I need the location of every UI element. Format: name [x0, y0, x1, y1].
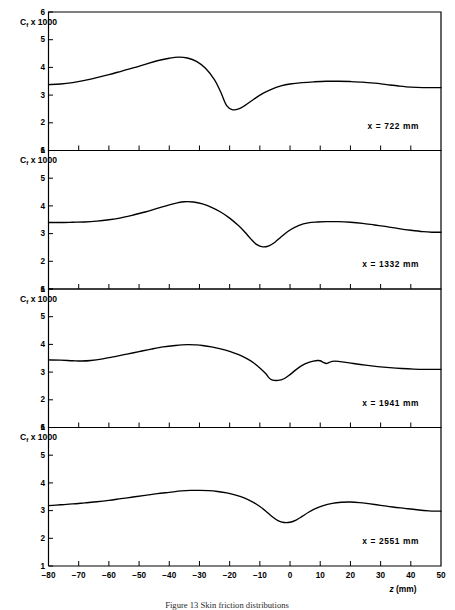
- y-axis-label: Cf x 1000: [20, 155, 57, 166]
- panel-1: 123456Cf x 1000x = 722 mm: [20, 8, 441, 156]
- y-tick-label: 6: [40, 285, 45, 294]
- panel-2: 123456Cf x 1000x = 1332 mm: [20, 146, 441, 294]
- x-tick-label: −70: [72, 571, 86, 580]
- x-tick-label: −30: [193, 571, 207, 580]
- y-tick-label: 2: [40, 257, 45, 266]
- skin-friction-figure: 123456Cf x 1000x = 722 mm123456Cf x 1000…: [0, 0, 455, 610]
- panel-annotation-2: x = 1332 mm: [362, 259, 419, 269]
- y-tick-label: 4: [40, 479, 45, 488]
- y-tick-label: 6: [40, 423, 45, 432]
- y-axis-label: Cf x 1000: [20, 294, 57, 305]
- y-tick-label: 5: [40, 174, 45, 183]
- x-tick-label: −20: [223, 571, 237, 580]
- curve-station-722: [49, 57, 442, 110]
- x-tick-label: 30: [376, 571, 386, 580]
- y-tick-label: 5: [40, 312, 45, 321]
- y-axis-label-rest: x 1000: [28, 432, 57, 442]
- y-tick-label: 1: [40, 562, 45, 571]
- y-axis-label: Cf x 1000: [20, 17, 57, 28]
- figure-container: 123456Cf x 1000x = 722 mm123456Cf x 1000…: [0, 0, 455, 610]
- x-tick-label: 40: [406, 571, 416, 580]
- y-tick-label: 3: [40, 506, 45, 515]
- x-tick-label: −80: [42, 571, 56, 580]
- y-axis-label-rest: x 1000: [28, 155, 57, 165]
- y-axis-label: Cf x 1000: [20, 432, 57, 443]
- figure-caption: Figure 13 Skin friction distributions: [165, 600, 289, 610]
- y-tick-label: 2: [40, 395, 45, 404]
- x-tick-label: 20: [346, 571, 356, 580]
- x-axis-group: −80−70−60−50−40−30−20−1001020304050z (mm…: [42, 571, 446, 595]
- y-tick-label: 5: [40, 35, 45, 44]
- x-tick-label: −10: [253, 571, 267, 580]
- x-axis-title: z (mm): [389, 584, 417, 594]
- y-axis-label-rest: x 1000: [28, 294, 57, 304]
- x-tick-label: 50: [436, 571, 446, 580]
- y-axis-label-rest: x 1000: [28, 17, 57, 27]
- y-tick-label: 3: [40, 229, 45, 238]
- panel-3: 123456Cf x 1000x = 1941 mm: [20, 285, 441, 433]
- curve-station-2551: [49, 490, 442, 522]
- y-tick-label: 5: [40, 451, 45, 460]
- y-tick-label: 4: [40, 63, 45, 72]
- y-tick-label: 2: [40, 534, 45, 543]
- x-tick-label: −60: [102, 571, 116, 580]
- y-tick-label: 6: [40, 8, 45, 17]
- panel-annotation-3: x = 1941 mm: [362, 398, 419, 408]
- y-tick-label: 6: [40, 146, 45, 155]
- panel-4: 123456Cf x 1000x = 2551 mm: [20, 423, 441, 571]
- y-tick-label: 3: [40, 368, 45, 377]
- x-tick-label: −40: [162, 571, 176, 580]
- curve-station-1332: [49, 202, 442, 247]
- y-tick-label: 4: [40, 202, 45, 211]
- y-tick-label: 3: [40, 91, 45, 100]
- curve-station-1941: [49, 345, 442, 381]
- x-tick-label: 0: [288, 571, 293, 580]
- y-tick-label: 4: [40, 340, 45, 349]
- panel-annotation-1: x = 722 mm: [368, 121, 419, 131]
- x-tick-label: 10: [316, 571, 326, 580]
- x-axis-unit: (mm): [394, 584, 417, 594]
- panel-annotation-4: x = 2551 mm: [362, 536, 419, 546]
- x-tick-label: −50: [132, 571, 146, 580]
- y-tick-label: 2: [40, 118, 45, 127]
